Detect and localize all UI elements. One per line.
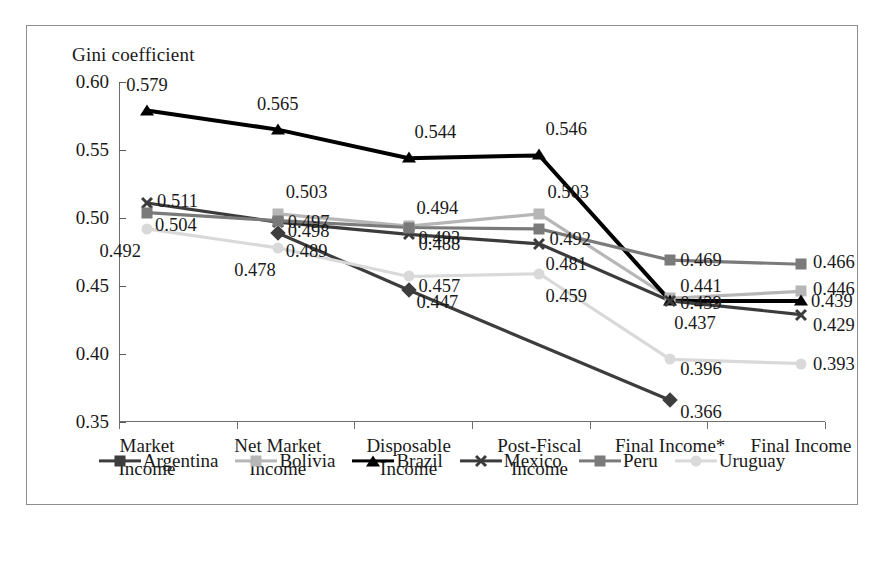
data-label-brazil-2: 0.544 [415, 122, 457, 143]
data-label-brazil-5: 0.439 [811, 290, 853, 311]
data-label-mexico-3: 0.481 [545, 253, 587, 274]
plot-area: 0.600.550.500.450.400.35 MarketIncomeNet… [119, 82, 825, 422]
legend-swatch-argentina [99, 454, 141, 468]
data-label-uruguay-4: 0.396 [680, 359, 722, 380]
legend-item-mexico[interactable]: Mexico [460, 450, 562, 472]
data-label-mexico-0: 0.511 [157, 191, 198, 212]
data-label-brazil-3: 0.546 [545, 119, 587, 140]
legend-label: Brazil [396, 450, 442, 472]
legend-swatch-mexico [460, 454, 502, 468]
y-tick [119, 422, 126, 423]
chart-legend: ArgentinaBoliviaBrazilMexicoPeruUruguay [27, 450, 857, 472]
legend-swatch-bolivia [235, 454, 277, 468]
legend-swatch-brazil [352, 454, 394, 468]
data-label-uruguay-3: 0.459 [545, 285, 587, 306]
legend-marker-square-icon [251, 456, 262, 467]
data-label-brazil-0: 0.579 [126, 74, 168, 95]
data-label-mexico-5: 0.429 [813, 314, 855, 335]
data-label-peru-0: 0.504 [155, 214, 197, 235]
data-label-brazil-1: 0.565 [257, 93, 299, 114]
data-label-peru-1: 0.498 [288, 220, 330, 241]
x-tick [237, 422, 238, 429]
y-tick-label: 0.40 [53, 343, 109, 365]
data-label-bolivia-3: 0.503 [547, 181, 589, 202]
legend-marker-square-icon [594, 456, 605, 467]
data-label-peru-4: 0.469 [680, 250, 722, 271]
x-tick [472, 422, 473, 429]
legend-marker-triangle-icon [366, 456, 380, 467]
y-tick-label: 0.35 [53, 411, 109, 433]
legend-label: Uruguay [719, 450, 785, 472]
x-tick [707, 422, 708, 429]
data-label-peru-3: 0.492 [549, 228, 591, 249]
legend-item-brazil[interactable]: Brazil [352, 450, 442, 472]
legend-swatch-uruguay [675, 454, 717, 468]
data-label-bolivia-1: 0.503 [286, 181, 328, 202]
legend-label: Mexico [504, 450, 562, 472]
legend-item-peru[interactable]: Peru [579, 450, 658, 472]
legend-item-uruguay[interactable]: Uruguay [675, 450, 785, 472]
data-label-mexico-4: 0.437 [674, 312, 716, 333]
y-tick-label: 0.60 [53, 71, 109, 93]
legend-swatch-peru [579, 454, 621, 468]
data-label-bolivia-2: 0.494 [417, 198, 459, 219]
y-tick-label: 0.45 [53, 275, 109, 297]
data-label-uruguay-1: 0.478 [234, 259, 276, 280]
x-tick [119, 422, 120, 429]
x-tick [354, 422, 355, 429]
data-label-argentina-4: 0.366 [680, 402, 722, 423]
legend-label: Argentina [143, 450, 219, 472]
legend-marker-circle-icon [690, 456, 701, 467]
x-tick [825, 422, 826, 429]
line-argentina [278, 233, 670, 400]
x-tick [590, 422, 591, 429]
legend-label: Bolivia [279, 450, 335, 472]
legend-label: Peru [623, 450, 658, 472]
y-tick-label: 0.55 [53, 139, 109, 161]
data-label-uruguay-5: 0.393 [813, 353, 855, 374]
legend-item-bolivia[interactable]: Bolivia [235, 450, 335, 472]
data-label-argentina-1: 0.489 [286, 240, 328, 261]
chart-title: Gini coefficient [72, 44, 195, 66]
data-label-peru-5: 0.466 [813, 252, 855, 273]
chart-frame: Gini coefficient 0.600.550.500.450.400.3… [26, 25, 858, 505]
legend-item-argentina[interactable]: Argentina [99, 450, 219, 472]
data-label-uruguay-0: 0.492 [99, 240, 141, 261]
data-label-brazil-4: 0.439 [680, 292, 722, 313]
data-label-peru-2: 0.493 [419, 227, 461, 248]
data-label-uruguay-2: 0.457 [419, 276, 461, 297]
legend-marker-x-icon [474, 454, 488, 468]
y-tick-label: 0.50 [53, 207, 109, 229]
legend-marker-diamond-icon [114, 456, 125, 467]
